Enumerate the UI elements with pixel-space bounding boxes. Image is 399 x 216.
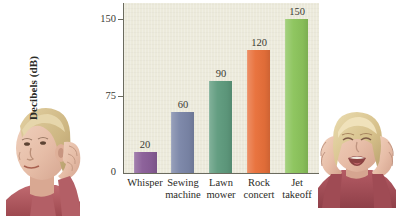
category-label-jet-takeoff: Jet takeoff: [269, 177, 325, 200]
y-tick-label-150: 150: [82, 13, 116, 24]
y-tick-label-0: 0: [82, 166, 116, 177]
bar-value-rock-concert: 120: [239, 37, 279, 48]
bar-fill-rock-concert: [247, 50, 270, 173]
bar-whisper: [134, 152, 157, 173]
bar-jet-takeoff: [285, 19, 308, 173]
bar-fill-whisper: [134, 152, 157, 173]
figure-root: Decibels (dB) 150 75 0 20 60 90 120 150: [0, 0, 399, 216]
y-tick-75: [118, 96, 123, 97]
category-label-jet-takeoff-line1: Jet: [269, 177, 325, 189]
bar-fill-lawn-mower: [209, 81, 232, 173]
bar-fill-sewing-machine: [171, 112, 194, 173]
y-tick-150: [118, 19, 123, 20]
decibels-bar-chart: Decibels (dB) 150 75 0 20 60 90 120 150: [0, 0, 399, 216]
y-axis-title: Decibels (dB): [27, 28, 39, 148]
bar-value-jet-takeoff: 150: [277, 6, 317, 17]
bar-sewing-machine: [171, 112, 194, 173]
bar-rock-concert: [247, 50, 270, 173]
bar-fill-jet-takeoff: [285, 19, 308, 173]
bar-value-lawn-mower: 90: [201, 68, 241, 79]
bar-value-whisper: 20: [125, 139, 165, 150]
bar-lawn-mower: [209, 81, 232, 173]
category-label-jet-takeoff-line2: takeoff: [269, 189, 325, 201]
bar-value-sewing-machine: 60: [163, 99, 203, 110]
y-tick-label-75: 75: [82, 90, 116, 101]
y-axis-line: [123, 3, 124, 174]
x-axis-line: [123, 173, 319, 174]
